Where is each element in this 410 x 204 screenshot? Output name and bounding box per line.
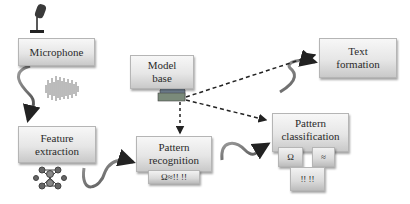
model-base-box: Model base (130, 55, 194, 89)
text-formation-box: Text formation (319, 38, 397, 78)
pattern-recognition-label-line1: Pattern (158, 141, 189, 154)
pattern-classification-label-line1: Pattern (295, 117, 326, 130)
feature-extraction-label-line2: extraction (35, 145, 79, 158)
feature-extraction-box: Feature extraction (18, 126, 96, 163)
model-base-label-line1: Model (148, 59, 177, 72)
curve-arrow-mic-to-feature (18, 66, 33, 120)
sound-wave-icon (46, 76, 78, 101)
classification-exclaim-box: !! !! (290, 167, 325, 191)
connectors-layer (0, 0, 410, 204)
pattern-classification-label-line2: classification (281, 130, 339, 143)
classification-omega-symbol: Ω (287, 151, 294, 164)
microphone-box: Microphone (18, 38, 95, 66)
pattern-recognition-box: Pattern recognition (136, 136, 212, 172)
dashed-arrow-model-to-classification (186, 100, 266, 120)
pattern-recognition-symbol-box: Ω≈!! !! (148, 170, 200, 184)
microphone-label: Microphone (30, 46, 84, 59)
pattern-recognition-label-line2: recognition (149, 154, 199, 167)
classification-exclaim-symbol: !! !! (300, 173, 314, 186)
model-base-label-line2: base (152, 72, 172, 85)
text-formation-label-line2: formation (336, 58, 379, 71)
pattern-recognition-symbols: Ω≈!! !! (161, 171, 187, 184)
curve-arrow-classification-to-text (280, 60, 315, 92)
feature-extraction-label-line1: Feature (41, 132, 74, 145)
classification-omega-box: Ω (278, 147, 303, 167)
classification-approx-box: ≈ (312, 147, 335, 167)
classification-approx-symbol: ≈ (321, 151, 326, 164)
text-formation-label-line1: Text (348, 45, 367, 58)
curve-arrow-feature-to-recognition (83, 160, 133, 187)
curve-arrow-recognition-to-classification (222, 143, 268, 160)
microphone-icon (30, 3, 47, 33)
network-nodes-icon (34, 167, 67, 189)
